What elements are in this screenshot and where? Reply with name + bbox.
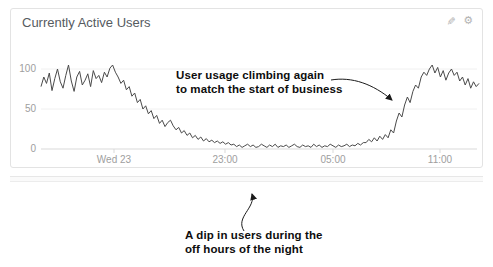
x-axis-label: Wed 23: [97, 154, 132, 165]
callout-night-dip: A dip in users during the off hours of t…: [185, 228, 323, 256]
dashboard-screen: Currently Active Users ✎ ⚙ Wed 2323:0005…: [0, 0, 493, 267]
gear-icon[interactable]: ⚙: [463, 14, 473, 28]
panel-header: Currently Active Users ✎ ⚙: [11, 9, 482, 37]
y-axis-label: 50: [25, 103, 37, 114]
callout-line: off hours of the night: [185, 242, 323, 256]
arrow-to-night-dip: [242, 194, 253, 231]
next-panel-top-edge: [10, 176, 483, 182]
callout-line: A dip in users during the: [185, 228, 323, 242]
x-axis-label: 23:00: [212, 154, 237, 165]
edit-icon[interactable]: ✎: [445, 14, 454, 28]
x-axis-label: 11:00: [428, 154, 453, 165]
active-users-chart[interactable]: Wed 2323:0005:0011:00050100: [11, 37, 482, 167]
y-axis-label: 100: [19, 63, 36, 74]
panel-title[interactable]: Currently Active Users: [22, 15, 151, 30]
callout-business-hours: User usage climbing again to match the s…: [176, 68, 343, 96]
callout-line: User usage climbing again: [176, 68, 343, 82]
callout-line: to match the start of business: [176, 82, 343, 96]
x-axis-label: 05:00: [320, 154, 345, 165]
panel-actions: ✎ ⚙: [445, 14, 473, 28]
y-axis-label: 0: [30, 143, 36, 154]
